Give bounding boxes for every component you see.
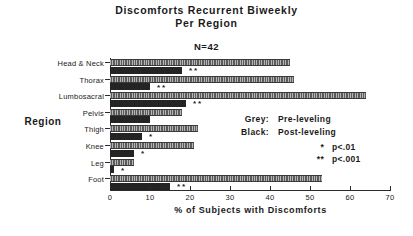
bar-pre-leveling-foot (110, 175, 322, 182)
pvalue-text-double: p<.001 (332, 153, 361, 165)
x-tick-label: 20 (185, 193, 194, 202)
x-tick-label: 30 (225, 193, 234, 202)
chart-title-line-2: Per Region (0, 17, 413, 30)
legend-value-pre-leveling: Pre-leveling (278, 113, 331, 126)
x-tick-mark (310, 186, 311, 191)
x-tick-label: 70 (385, 193, 394, 202)
pvalue-marker-single: * (232, 141, 332, 153)
bar-post-leveling-knee (110, 150, 134, 157)
x-axis-title: % of Subjects with Discomforts (110, 205, 391, 215)
y-axis-label-foot: Foot (0, 175, 110, 184)
significance-marker: ** (177, 183, 187, 190)
legend-item-post-leveling: Black: Post-leveling (232, 126, 413, 139)
bar-pre-leveling-thigh (110, 125, 198, 132)
significance-marker: ** (189, 67, 199, 74)
legend-key-black: Black: (232, 126, 278, 139)
significance-marker: ** (157, 84, 167, 91)
y-axis-label-leg: Leg (0, 159, 110, 168)
x-tick-mark (350, 186, 351, 191)
bar-pre-leveling-leg (110, 159, 134, 166)
significance-marker: * (149, 133, 154, 140)
bar-pre-leveling-knee (110, 142, 194, 149)
y-axis-label-knee: Knee (0, 142, 110, 151)
y-axis-label-lumbosacral: Lumbosacral (0, 92, 110, 101)
significance-marker: * (121, 167, 126, 174)
legend-key-grey: Grey: (232, 113, 278, 126)
x-tick-label: 10 (145, 193, 154, 202)
y-axis-label-thigh: Thigh (0, 125, 110, 134)
pvalue-text-single: p<.01 (332, 141, 355, 153)
legend-value-post-leveling: Post-leveling (278, 126, 336, 139)
bar-post-leveling-thigh (110, 133, 142, 140)
bar-pre-leveling-head-neck (110, 59, 290, 66)
x-tick-mark (110, 186, 111, 191)
bar-pre-leveling-pelvis (110, 109, 182, 116)
x-tick-label: 60 (345, 193, 354, 202)
bar-pre-leveling-lumbosacral (110, 92, 366, 99)
y-axis-label-head-neck: Head & Neck (0, 59, 110, 68)
bar-post-leveling-lumbosacral (110, 100, 186, 107)
legend-item-pre-leveling: Grey: Pre-leveling (232, 113, 413, 126)
pvalue-marker-double: ** (232, 153, 332, 165)
chart-subtitle-sample-size: N=42 (0, 41, 413, 52)
x-tick-mark (230, 186, 231, 191)
y-axis-label-pelvis: Pelvis (0, 109, 110, 118)
y-axis-label-thorax: Thorax (0, 76, 110, 85)
x-tick-mark (150, 186, 151, 191)
chart-legend: Grey: Pre-leveling Black: Post-leveling … (232, 113, 413, 165)
legend-pvalue-single-star: * p<.01 (232, 141, 413, 153)
x-tick-label: 50 (305, 193, 314, 202)
x-axis-line (110, 190, 391, 191)
significance-marker: ** (193, 100, 203, 107)
chart-title-line-1: Discomforts Recurrent Biweekly (0, 4, 413, 17)
chart-figure: Discomforts Recurrent Biweekly Per Regio… (0, 0, 413, 236)
bar-post-leveling-pelvis (110, 116, 150, 123)
bar-pre-leveling-thorax (110, 76, 294, 83)
significance-marker: * (141, 150, 146, 157)
x-tick-mark (270, 186, 271, 191)
bar-post-leveling-leg (110, 166, 114, 173)
x-tick-mark (190, 186, 191, 191)
chart-title: Discomforts Recurrent Biweekly Per Regio… (0, 4, 413, 30)
x-tick-label: 40 (265, 193, 274, 202)
bar-post-leveling-thorax (110, 83, 150, 90)
bar-post-leveling-foot (110, 183, 170, 190)
bar-post-leveling-head-neck (110, 67, 182, 74)
legend-pvalue-double-star: ** p<.001 (232, 153, 413, 165)
x-tick-mark (390, 186, 391, 191)
x-tick-label: 0 (108, 193, 113, 202)
